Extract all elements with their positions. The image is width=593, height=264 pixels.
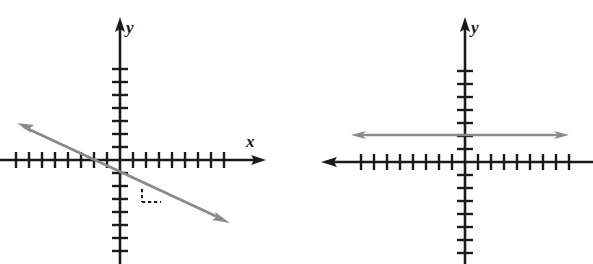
left-graph-right-angle-marker-icon bbox=[142, 189, 161, 202]
figure-root: y x bbox=[0, 0, 593, 264]
left-graph-y-axis-label: y bbox=[124, 18, 134, 37]
coordinate-graphs-canvas: y x bbox=[0, 0, 593, 264]
right-graph: y bbox=[321, 17, 593, 264]
right-graph-y-axis-label: y bbox=[469, 18, 479, 37]
left-graph-line-arrowhead-right-icon bbox=[212, 212, 230, 223]
left-graph: y x bbox=[0, 17, 266, 264]
left-graph-x-axis-label: x bbox=[245, 132, 255, 151]
left-graph-plotted-line bbox=[24, 127, 222, 219]
